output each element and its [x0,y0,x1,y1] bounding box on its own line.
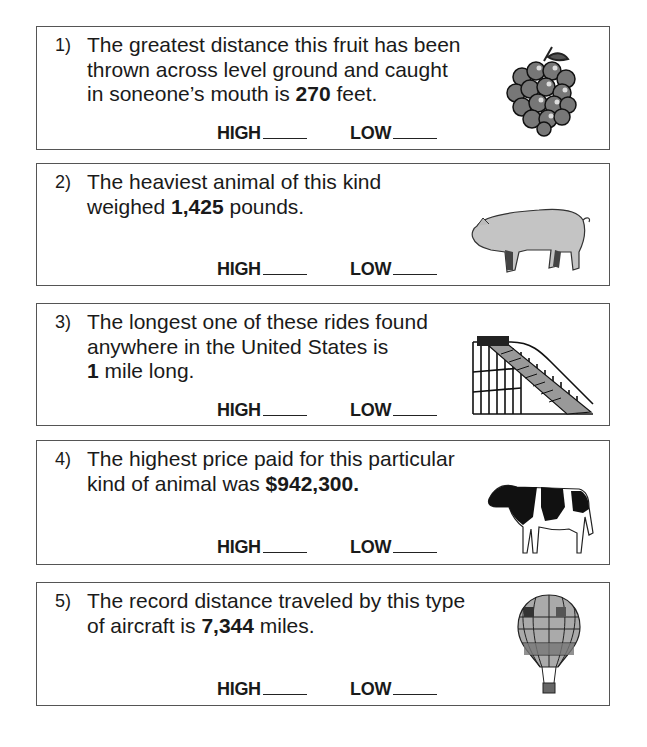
question-number: 4) [55,449,71,470]
record-value: 7,344 [201,614,254,637]
high-blank[interactable] [263,124,307,139]
high-blank[interactable] [263,680,307,695]
high-blank[interactable] [263,538,307,553]
question-text: The greatest distance this fruit has bee… [87,33,497,107]
roller-coaster-icon [471,332,595,416]
question-text: The longest one of these rides found any… [87,310,497,384]
high-answer[interactable]: HIGH [217,259,307,280]
high-answer[interactable]: HIGH [217,123,307,144]
question-card-1: 1) The greatest distance this fruit has … [36,26,610,150]
low-blank[interactable] [393,538,437,553]
question-number: 5) [55,591,71,612]
pig-icon [469,204,591,278]
cow-icon [487,477,597,557]
hot-air-balloon-icon [516,593,582,699]
high-blank[interactable] [263,401,307,416]
low-blank[interactable] [393,260,437,275]
low-answer[interactable]: LOW [350,679,437,700]
grapes-icon [504,41,580,137]
question-number: 3) [55,312,71,333]
question-card-3: 3) The longest one of these rides found … [36,303,610,426]
low-blank[interactable] [393,401,437,416]
question-number: 1) [55,35,71,56]
question-text: The record distance traveled by this typ… [87,589,497,638]
high-answer[interactable]: HIGH [217,537,307,558]
high-blank[interactable] [263,260,307,275]
question-card-5: 5) The record distance traveled by this … [36,582,610,706]
record-value: 1,425 [171,195,224,218]
high-answer[interactable]: HIGH [217,400,307,421]
low-answer[interactable]: LOW [350,537,437,558]
low-answer[interactable]: LOW [350,123,437,144]
record-value: $942,300. [266,472,359,495]
low-blank[interactable] [393,680,437,695]
high-answer[interactable]: HIGH [217,679,307,700]
record-value: 270 [296,82,331,105]
record-value: 1 [87,359,99,382]
question-text: The highest price paid for this particul… [87,447,497,496]
low-answer[interactable]: LOW [350,259,437,280]
question-number: 2) [55,172,71,193]
question-card-4: 4) The highest price paid for this parti… [36,440,610,565]
question-card-2: 2) The heaviest animal of this kind weig… [36,163,610,286]
low-blank[interactable] [393,124,437,139]
question-text: The heaviest animal of this kind weighed… [87,170,497,219]
low-answer[interactable]: LOW [350,400,437,421]
